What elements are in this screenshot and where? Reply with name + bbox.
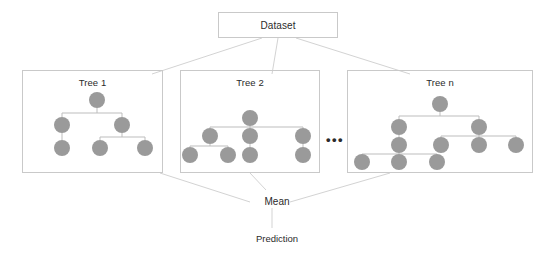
tree2-node	[182, 147, 198, 163]
treen-node	[471, 137, 487, 153]
treen-node	[432, 96, 448, 112]
prediction-label: Prediction	[0, 233, 554, 245]
treen-node	[391, 154, 407, 170]
treen-node	[429, 154, 445, 170]
dataset-to-tree-connector	[272, 38, 278, 74]
treen-node	[508, 137, 524, 153]
tree1-node	[54, 117, 70, 133]
tree2-node	[295, 128, 311, 144]
tree1-node	[92, 140, 108, 156]
dataset-label: Dataset	[219, 20, 337, 32]
tree2-node	[202, 128, 218, 144]
ellipsis-indicator: •••	[322, 133, 348, 146]
treen-node	[433, 137, 449, 153]
tree2-node	[242, 110, 258, 126]
tree2-node	[220, 147, 236, 163]
tree2-node	[242, 128, 258, 144]
dataset-to-tree-connector	[152, 38, 262, 74]
tree-to-mean-connector	[250, 173, 266, 190]
tree2-node	[295, 147, 311, 163]
tree-2-label: Tree 2	[181, 77, 319, 89]
tree-1-label: Tree 1	[23, 77, 162, 89]
tree-1-box: Tree 1	[22, 70, 163, 173]
treen-node	[354, 154, 370, 170]
random-forest-diagram: Dataset Tree 1 Tree 2 Tree n ••• Mean Pr…	[0, 0, 554, 261]
tree1-node	[114, 117, 130, 133]
tree2-node	[242, 147, 258, 163]
tree1-node	[137, 140, 153, 156]
treen-node	[471, 119, 487, 135]
tree-n-label: Tree n	[348, 77, 532, 89]
mean-label: Mean	[0, 196, 554, 208]
tree1-node	[89, 92, 105, 108]
dataset-box: Dataset	[218, 12, 338, 38]
treen-node	[391, 137, 407, 153]
tree1-node	[54, 140, 70, 156]
dataset-to-tree-connector	[296, 38, 410, 74]
treen-node	[391, 119, 407, 135]
